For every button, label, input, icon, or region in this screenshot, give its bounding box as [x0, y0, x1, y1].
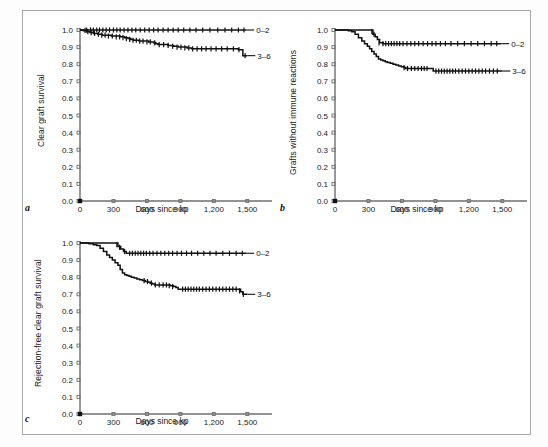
panel-b: Grafts without immune reactions 0.00.10.… — [277, 10, 531, 223]
panel-b-plot: 0.00.10.20.30.40.50.60.70.80.91.00300600… — [277, 10, 531, 223]
svg-text:1,500: 1,500 — [237, 205, 258, 214]
panel-c-plot: 0.00.10.20.30.40.50.60.70.80.91.00300600… — [22, 223, 277, 435]
svg-text:0.6: 0.6 — [62, 94, 74, 103]
svg-text:0.2: 0.2 — [62, 163, 74, 172]
series-label: 0–2 — [256, 26, 270, 35]
kaplan-meier-figure: Clear graft survival 0.00.10.20.30.40.50… — [0, 0, 548, 447]
panel-a-x-axis-title: Days since kp — [92, 204, 232, 214]
svg-text:0.2: 0.2 — [317, 163, 329, 172]
panel-c-y-axis-title: Rejection-free clear graft survival — [33, 241, 43, 406]
svg-text:0.6: 0.6 — [317, 94, 329, 103]
svg-text:0.7: 0.7 — [62, 77, 74, 86]
svg-text:0.3: 0.3 — [62, 146, 74, 155]
panel-a: Clear graft survival 0.00.10.20.30.40.50… — [22, 10, 277, 223]
series-label: 3–6 — [257, 290, 271, 299]
svg-text:0.8: 0.8 — [317, 60, 329, 69]
panel-b-x-axis-title: Days since kp — [347, 204, 487, 214]
svg-text:1.0: 1.0 — [62, 26, 74, 35]
panel-c: Rejection-free clear graft survival 0.00… — [22, 223, 277, 435]
panel-a-plot: 0.00.10.20.30.40.50.60.70.80.91.00300600… — [22, 10, 277, 223]
svg-text:0.4: 0.4 — [62, 129, 74, 138]
svg-text:0.9: 0.9 — [62, 256, 74, 265]
svg-text:1.0: 1.0 — [62, 239, 74, 248]
svg-text:0: 0 — [78, 418, 83, 427]
svg-text:0.7: 0.7 — [62, 290, 74, 299]
svg-text:0.5: 0.5 — [62, 325, 74, 334]
svg-text:0.4: 0.4 — [62, 342, 74, 351]
series-label: 3–6 — [512, 67, 526, 76]
series-label: 3–6 — [257, 52, 271, 61]
svg-text:0.5: 0.5 — [62, 112, 74, 121]
series-label: 0–2 — [256, 249, 270, 258]
svg-text:0.7: 0.7 — [317, 77, 329, 86]
svg-text:0.5: 0.5 — [317, 112, 329, 121]
svg-text:0.0: 0.0 — [317, 197, 329, 206]
panel-c-letter: c — [25, 413, 29, 424]
svg-text:0: 0 — [333, 205, 338, 214]
svg-text:0.6: 0.6 — [62, 307, 74, 316]
panel-a-letter: a — [25, 202, 30, 213]
svg-text:0: 0 — [78, 205, 83, 214]
svg-text:0.1: 0.1 — [62, 180, 74, 189]
svg-text:0.1: 0.1 — [317, 180, 329, 189]
svg-text:0.3: 0.3 — [317, 146, 329, 155]
svg-text:0.9: 0.9 — [317, 43, 329, 52]
panel-a-y-axis-title: Clear graft survival — [36, 36, 46, 186]
svg-text:0.2: 0.2 — [62, 376, 74, 385]
svg-text:1.0: 1.0 — [317, 26, 329, 35]
svg-text:0.1: 0.1 — [62, 393, 74, 402]
series-label: 0–2 — [511, 40, 525, 49]
svg-text:0.9: 0.9 — [62, 43, 74, 52]
svg-text:0.4: 0.4 — [317, 129, 329, 138]
panel-b-y-axis-title: Grafts without immune reactions — [288, 30, 298, 195]
svg-text:0.0: 0.0 — [62, 197, 74, 206]
svg-text:0.8: 0.8 — [62, 60, 74, 69]
svg-text:0.3: 0.3 — [62, 359, 74, 368]
panel-b-letter: b — [280, 202, 285, 213]
svg-text:1,500: 1,500 — [492, 205, 513, 214]
panel-c-x-axis-title: Days since kp — [92, 416, 232, 426]
svg-text:1,500: 1,500 — [237, 418, 258, 427]
svg-text:0.0: 0.0 — [62, 410, 74, 419]
svg-text:0.8: 0.8 — [62, 273, 74, 282]
